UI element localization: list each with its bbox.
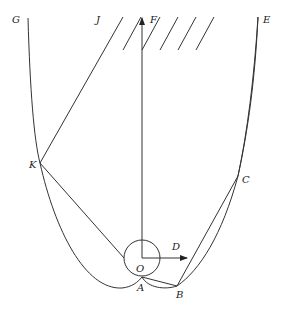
label-B: B: [175, 289, 183, 300]
label-J: J: [94, 14, 101, 25]
diagram-canvas: G J F E K C D O A B: [0, 0, 283, 310]
line-JK: [40, 17, 123, 163]
label-G: G: [12, 14, 20, 25]
label-F: F: [149, 14, 158, 25]
curve-ABCE: [142, 17, 258, 288]
line-BE: [177, 17, 258, 286]
label-K: K: [28, 159, 37, 170]
label-C: C: [242, 174, 250, 185]
label-O: O: [136, 263, 144, 274]
label-D: D: [171, 241, 180, 252]
line-OB: [142, 277, 177, 286]
label-A: A: [136, 282, 144, 293]
label-E: E: [262, 14, 271, 25]
ceiling-hatching: [123, 17, 214, 50]
line-KO: [40, 163, 124, 258]
